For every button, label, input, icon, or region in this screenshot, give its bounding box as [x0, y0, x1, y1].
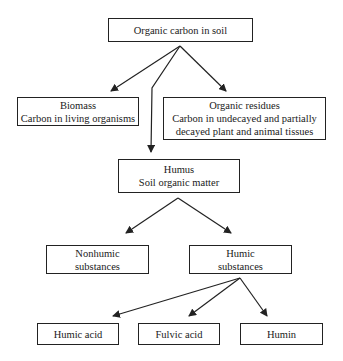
node-label-line2: substances — [75, 260, 120, 273]
node-label-line1: Nonhumic — [75, 247, 119, 260]
node-label-line1: Humic — [226, 247, 255, 260]
arrow-humic-to-humic-acid — [113, 278, 240, 316]
node-humus: Humus Soil organic matter — [118, 159, 240, 193]
node-label-line2: substances — [218, 260, 263, 273]
node-description-line2: decayed plant and animal tissues — [176, 125, 314, 138]
node-label: Humin — [267, 328, 296, 341]
arrow-humus-to-nonhumic — [126, 198, 178, 233]
node-nonhumic-substances: Nonhumic substances — [46, 245, 149, 274]
arrow-humic-to-fulvic-acid — [189, 278, 240, 316]
node-title: Biomass — [60, 99, 96, 112]
node-humin: Humin — [240, 323, 323, 345]
node-organic-residues: Organic residues Carbon in undecayed and… — [163, 97, 326, 140]
node-label: Humic acid — [54, 328, 103, 341]
node-description: Carbon in living organisms — [21, 112, 135, 125]
node-label: Fulvic acid — [156, 328, 203, 341]
node-biomass: Biomass Carbon in living organisms — [17, 97, 139, 126]
node-fulvic-acid: Fulvic acid — [138, 323, 220, 345]
node-label: Organic carbon in soil — [134, 24, 227, 37]
arrow-humus-to-humic — [178, 198, 231, 233]
node-title: Organic residues — [209, 99, 280, 112]
node-humic-acid: Humic acid — [37, 323, 119, 345]
node-organic-carbon-in-soil: Organic carbon in soil — [108, 18, 253, 42]
node-humic-substances: Humic substances — [189, 245, 292, 274]
arrow-root-to-residues — [180, 46, 226, 91]
node-description-line1: Carbon in undecayed and partially — [172, 112, 317, 125]
arrow-root-to-biomass — [111, 46, 180, 91]
node-description: Soil organic matter — [139, 176, 219, 189]
node-title: Humus — [164, 163, 194, 176]
arrow-humic-to-humin — [240, 278, 267, 316]
